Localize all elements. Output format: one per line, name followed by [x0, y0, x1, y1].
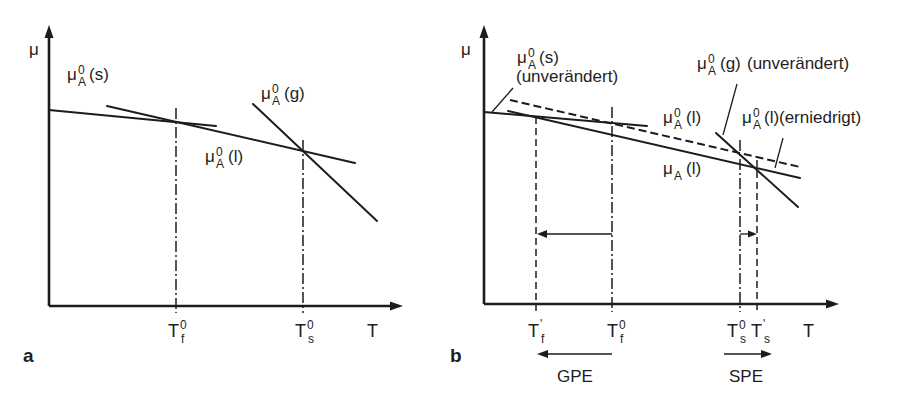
x-axis-arrow-icon [826, 300, 839, 309]
panel-a: μ T μ 0 A (s) μ 0 A (g) μ 0 A (l) T 0 f [23, 25, 403, 366]
label-subscript: A [272, 94, 280, 108]
tick-symbol: T [528, 321, 539, 341]
label-pure-liquid-potential: μ 0 A (l) [663, 106, 701, 132]
label-phase: (l) [764, 108, 779, 127]
gas-potential-line [253, 104, 377, 221]
tick-symbol: T [727, 321, 738, 341]
leader-gas-label [723, 84, 737, 135]
label-symbol: μ [697, 54, 707, 73]
label-solid-potential: μ 0 A (s) (unverändert) [516, 46, 618, 86]
y-axis-label: μ [29, 40, 39, 59]
panel-label-a: a [23, 345, 34, 366]
tick-symbol: T [168, 321, 179, 341]
tick-subscript: f [541, 332, 545, 346]
label-note: (unverändert) [747, 54, 849, 73]
tick-superscript: 0 [619, 318, 626, 332]
panel-label-b: b [450, 345, 462, 366]
tick-superscript: ' [763, 317, 765, 331]
label-solution-liquid-potential: μ A (l) [663, 159, 701, 183]
label-phase: (s) [539, 48, 559, 67]
label-subscript: A [78, 75, 86, 89]
gpe-label: GPE [557, 367, 593, 386]
tick-superscript: ' [540, 317, 542, 331]
label-gas-potential: μ 0 A (g) (unverändert) [697, 52, 849, 78]
label-lowered-liquid-potential: μ 0 A (l) (erniedrigt) [742, 106, 861, 132]
label-symbol: μ [742, 108, 752, 127]
tick-subscript: s [308, 332, 314, 346]
gpe-arrow-icon [537, 350, 548, 358]
label-note: (erniedrigt) [779, 108, 861, 127]
tick-symbol: T [295, 321, 306, 341]
x-axis-arrow-icon [390, 302, 403, 311]
y-axis-label: μ [461, 40, 471, 59]
label-subscript: A [216, 157, 224, 171]
y-axis-arrow-icon [45, 25, 54, 38]
label-symbol: μ [205, 147, 215, 166]
tick-subscript: s [740, 332, 746, 346]
panel-b: μ T μ 0 A (s) (unverändert) μ 0 A (g) (u… [450, 25, 861, 386]
leader-solid-label [492, 88, 513, 112]
tick-superscript: 0 [739, 318, 746, 332]
tick-subscript: f [181, 332, 185, 346]
label-phase: (l) [686, 108, 701, 127]
label-symbol: μ [517, 48, 527, 67]
tick-superscript: 0 [307, 318, 314, 332]
label-subscript: A [674, 118, 682, 132]
boiling-shift-arrow-icon [748, 231, 757, 238]
tick-subscript: f [620, 332, 624, 346]
label-phase: (g) [720, 54, 741, 73]
label-symbol: μ [67, 65, 77, 84]
tick-label-boiling-point: T 0 s [727, 318, 746, 346]
label-phase: (l) [686, 159, 701, 178]
label-symbol: μ [663, 159, 673, 178]
tick-label-new-freezing-point: T ' f [528, 317, 545, 346]
label-symbol: μ [261, 84, 271, 103]
spe-arrow-icon [761, 350, 772, 358]
tick-subscript: s [764, 332, 770, 346]
tick-label-boiling-point: T 0 s [295, 318, 314, 346]
y-axis-arrow-icon [480, 25, 489, 38]
label-phase: (g) [284, 84, 305, 103]
tick-symbol: T [751, 321, 762, 341]
tick-superscript: 0 [180, 318, 187, 332]
x-axis-label: T [367, 321, 378, 341]
tick-label-freezing-point: T 0 f [168, 318, 187, 346]
tick-label-freezing-point: T 0 f [607, 318, 626, 346]
label-liquid-potential: μ 0 A (l) [205, 145, 243, 171]
label-symbol: μ [663, 108, 673, 127]
spe-label: SPE [729, 367, 763, 386]
label-subscript: A [674, 169, 682, 183]
label-subscript: A [708, 64, 716, 78]
label-phase: (s) [89, 65, 109, 84]
label-phase: (l) [228, 147, 243, 166]
tick-symbol: T [607, 321, 618, 341]
label-subscript: A [753, 118, 761, 132]
phase-diagram-figure: μ T μ 0 A (s) μ 0 A (g) μ 0 A (l) T 0 f [0, 0, 903, 401]
label-gas-potential: μ 0 A (g) [261, 82, 305, 108]
label-solid-potential: μ 0 A (s) [67, 63, 109, 89]
x-axis-label: T [803, 321, 814, 341]
freezing-shift-arrow-icon [537, 230, 547, 238]
tick-label-new-boiling-point: T ' s [751, 317, 770, 346]
label-note: (unverändert) [516, 67, 618, 86]
